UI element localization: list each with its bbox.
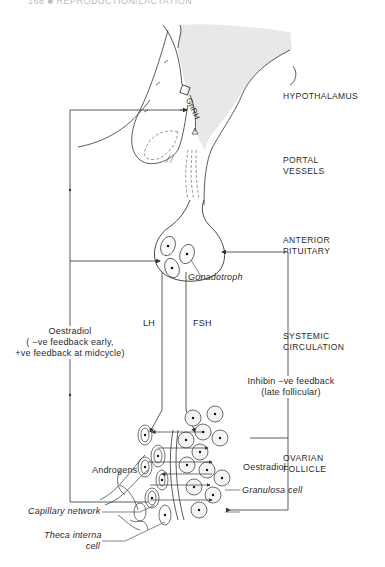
theca-line1: Theca interna xyxy=(44,530,100,541)
oestradiol-feedback-line2: ( −ve feedback early, xyxy=(6,337,134,348)
anterior-pituitary xyxy=(154,200,224,281)
label-androgens: Androgens xyxy=(92,465,137,476)
label-theca-interna-cell: Theca interna cell xyxy=(44,530,100,552)
label-ovarian-follicle: OVARIAN FOLLICLE xyxy=(283,453,326,475)
oestradiol-feedback-line1: Oestradiol xyxy=(6,326,134,337)
label-inhibin-feedback: Inhibin −ve feedback (late follicular) xyxy=(232,376,350,398)
label-capillary-network: Capillary network xyxy=(28,506,100,517)
label-systemic-circulation: SYSTEMIC CIRCULATION xyxy=(283,331,344,353)
label-pituitary-line2: PITUITARY xyxy=(283,246,330,257)
inhibin-line2: (late follicular) xyxy=(232,387,350,398)
label-circulation-line2: CIRCULATION xyxy=(283,342,344,353)
oestradiol-feedback-loop xyxy=(69,110,187,502)
label-oestradiol-feedback: Oestradiol ( −ve feedback early, +ve fee… xyxy=(6,326,134,359)
oestradiol-feedback-line3: +ve feedback at midcycle) xyxy=(6,348,134,359)
label-fsh: FSH xyxy=(193,318,212,329)
inhibin-line1: Inhibin −ve feedback xyxy=(232,376,350,387)
label-lh: LH xyxy=(143,318,155,329)
label-oestradiol: Oestradiol xyxy=(243,462,286,473)
label-circulation-line1: SYSTEMIC xyxy=(283,331,344,342)
label-anterior-pituitary: ANTERIOR PITUITARY xyxy=(283,235,330,257)
label-portal-line1: PORTAL xyxy=(283,155,325,166)
label-portal-line2: VESSELS xyxy=(283,166,325,177)
hypothalamus-shape xyxy=(163,24,296,205)
label-hypothalamus: HYPOTHALAMUS xyxy=(283,91,358,102)
hpo-axis-diagram xyxy=(0,0,385,567)
theca-line2: cell xyxy=(44,541,100,552)
label-follicle-line1: OVARIAN xyxy=(283,453,326,464)
label-follicle-line2: FOLLICLE xyxy=(283,464,326,475)
label-granulosa-cell: Granulosa cell xyxy=(242,485,302,496)
label-gonadotroph: Gonadotroph xyxy=(188,272,243,283)
label-portal-vessels: PORTAL VESSELS xyxy=(283,155,325,177)
label-pituitary-line1: ANTERIOR xyxy=(283,235,330,246)
